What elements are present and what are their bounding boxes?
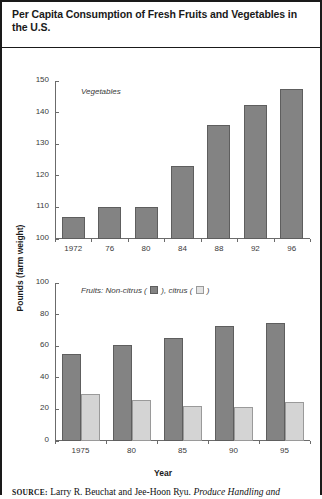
plot-area-fruits: Fruits: Non-citrus ( ), citrus ( ) 02040… (55, 283, 310, 441)
y-tick-label: 110 (36, 201, 49, 210)
x-tick-label-fruits-85: 85 (178, 446, 187, 455)
x-tick-label-vegetables-1972: 1972 (64, 244, 82, 253)
y-axis-line-vegetables (55, 81, 56, 239)
bar-vegetables-vegetables-80 (135, 207, 158, 239)
legend-fruits: Fruits: Non-citrus ( ), citrus ( ) (81, 286, 210, 295)
x-tick-label-fruits-80: 80 (127, 446, 136, 455)
legend-citrus-label: ), citrus ( (161, 286, 192, 295)
bar-fruits-non-citrus-1975 (62, 354, 81, 441)
legend-suffix: ) (207, 286, 210, 295)
y-tick-mark (55, 377, 59, 378)
bar-vegetables-vegetables-76 (98, 207, 121, 239)
x-tick-label-vegetables-76: 76 (105, 244, 114, 253)
x-separator (259, 441, 260, 444)
x-tick-label-fruits-90: 90 (229, 446, 238, 455)
y-tick-label: 40 (40, 372, 49, 381)
bar-fruits-non-citrus-95 (266, 323, 285, 441)
y-tick-mark (55, 144, 59, 145)
x-separator (208, 441, 209, 444)
y-tick-mark (55, 409, 59, 410)
figure-title-block: Per Capita Consumption of Fresh Fruits a… (2, 2, 320, 48)
light-square-swatch-icon (196, 286, 204, 294)
y-tick-label: 120 (36, 170, 49, 179)
x-separator (310, 239, 311, 242)
bar-vegetables-vegetables-1972 (62, 217, 85, 239)
chart-note-vegetables: Vegetables (81, 87, 121, 96)
source-note: SOURCE: Larry R. Beuchat and Jee-Hoon Ry… (12, 487, 310, 499)
x-separator (164, 239, 165, 242)
bar-fruits-non-citrus-80 (113, 345, 132, 441)
x-tick-label-fruits-95: 95 (280, 446, 289, 455)
bar-fruits-citrus-80 (132, 400, 151, 441)
y-tick-mark (55, 175, 59, 176)
x-tick-label-vegetables-92: 92 (251, 244, 260, 253)
y-axis-line-fruits (55, 283, 56, 441)
x-separator (55, 239, 56, 242)
x-separator (55, 441, 56, 444)
x-separator (274, 239, 275, 242)
plot-area-vegetables: Vegetables 10011012013014015019727680848… (55, 81, 310, 239)
page-title: Per Capita Consumption of Fresh Fruits a… (12, 8, 308, 35)
y-tick-label: 20 (40, 403, 49, 412)
x-separator (128, 239, 129, 242)
x-axis-label: Year (2, 468, 322, 478)
x-separator (106, 441, 107, 444)
x-separator (201, 239, 202, 242)
source-prefix: SOURCE: (12, 488, 48, 497)
x-tick-label-vegetables-84: 84 (178, 244, 187, 253)
bar-fruits-non-citrus-85 (164, 338, 183, 441)
bar-fruits-non-citrus-90 (215, 326, 234, 441)
y-tick-label: 0 (45, 435, 49, 444)
y-tick-label: 100 (36, 233, 49, 242)
y-tick-mark (55, 346, 59, 347)
bar-vegetables-vegetables-88 (207, 125, 230, 239)
x-tick-label-fruits-1975: 1975 (72, 446, 90, 455)
dark-square-swatch-icon (150, 286, 158, 294)
x-tick-label-vegetables-88: 88 (214, 244, 223, 253)
source-authors: Larry R. Beuchat and Jee-Hoon Ryu. (48, 487, 194, 497)
x-separator (91, 239, 92, 242)
bar-vegetables-vegetables-92 (244, 105, 267, 239)
bar-vegetables-vegetables-84 (171, 166, 194, 239)
bar-fruits-citrus-90 (234, 407, 253, 441)
y-tick-label: 60 (40, 340, 49, 349)
y-tick-mark (55, 207, 59, 208)
y-tick-mark (55, 112, 59, 113)
y-tick-label: 130 (36, 138, 49, 147)
x-tick-label-vegetables-96: 96 (287, 244, 296, 253)
bar-fruits-citrus-85 (183, 406, 202, 441)
y-tick-label: 100 (36, 277, 49, 286)
y-tick-label: 80 (40, 309, 49, 318)
x-tick-label-vegetables-80: 80 (142, 244, 151, 253)
charts-container: Pounds (farm weight) Vegetables 10011012… (2, 48, 320, 495)
source-title: Produce Handling and (193, 487, 280, 497)
chart-fruits: Fruits: Non-citrus ( ), citrus ( ) 02040… (2, 263, 322, 497)
y-tick-label: 150 (36, 75, 49, 84)
legend-non-citrus-label: Fruits: Non-citrus ( (81, 286, 147, 295)
bar-fruits-citrus-1975 (81, 394, 100, 441)
x-separator (237, 239, 238, 242)
y-tick-mark (55, 314, 59, 315)
x-separator (310, 441, 311, 444)
x-separator (157, 441, 158, 444)
bar-fruits-citrus-95 (285, 402, 304, 442)
y-tick-label: 140 (36, 107, 49, 116)
chart-vegetables: Vegetables 10011012013014015019727680848… (2, 48, 322, 263)
y-tick-mark (55, 81, 59, 82)
y-tick-mark (55, 283, 59, 284)
bar-vegetables-vegetables-96 (280, 89, 303, 239)
